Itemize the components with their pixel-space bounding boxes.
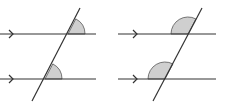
parallel-lines-diagram — [0, 0, 230, 109]
transversal-line — [32, 8, 80, 101]
